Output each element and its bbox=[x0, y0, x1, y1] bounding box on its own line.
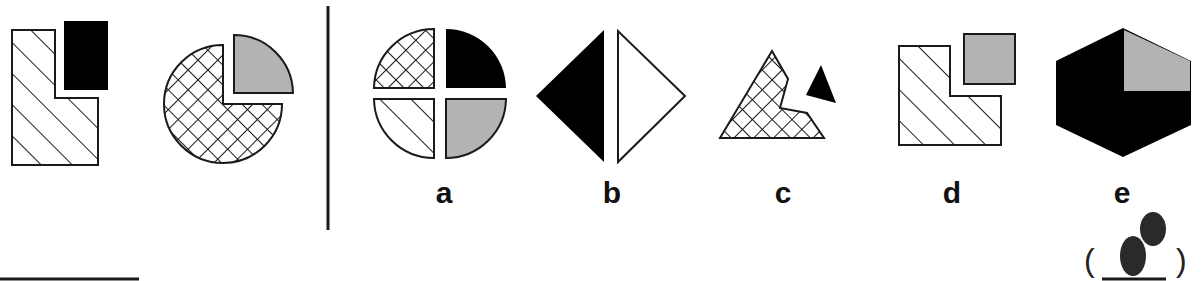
given-figure-l-shape bbox=[12, 21, 108, 165]
option-c-label[interactable]: c bbox=[775, 176, 792, 210]
answer-close-paren: ) bbox=[1176, 242, 1187, 279]
puzzle-canvas bbox=[0, 0, 1201, 281]
option-d-label[interactable]: d bbox=[943, 176, 961, 210]
option-e-label[interactable]: e bbox=[1114, 176, 1131, 210]
ink-blot bbox=[1140, 212, 1166, 246]
ink-blot bbox=[1120, 236, 1146, 276]
option-a-label[interactable]: a bbox=[436, 176, 453, 210]
option-d-figure bbox=[899, 34, 1015, 145]
option-b-figure bbox=[536, 30, 685, 162]
option-e-figure bbox=[1056, 28, 1191, 157]
option-a-figure bbox=[374, 29, 506, 158]
option-c-figure bbox=[720, 51, 836, 138]
answer-open-paren: ( bbox=[1084, 242, 1095, 279]
given-figure-pie bbox=[164, 35, 293, 163]
option-b-label[interactable]: b bbox=[603, 176, 621, 210]
